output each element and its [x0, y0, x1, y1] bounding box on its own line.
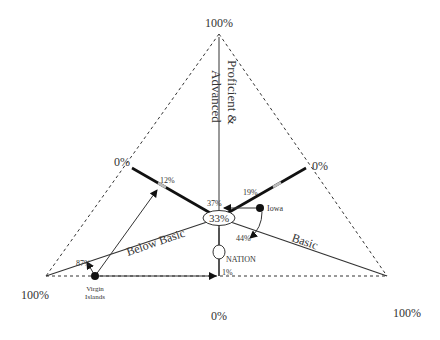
iowa-basic-value: 44%	[236, 234, 251, 243]
below-basic-label: Below Basic	[124, 226, 186, 259]
vi-1-value: 1%	[222, 268, 233, 277]
basic-label: Basic	[290, 231, 320, 253]
vi-arrow-12	[95, 190, 157, 276]
bottom-right-vertex-label: 100%	[393, 306, 421, 320]
iowa-19-value: 19%	[243, 188, 258, 197]
nation-oval[interactable]	[213, 245, 225, 259]
ternary-diagram: 33% NATION 100% 100% 100% 0% 0% 0% Profi…	[0, 0, 440, 340]
bottom-left-vertex-label: 100%	[21, 288, 49, 302]
virgin-islands-point[interactable]	[91, 272, 99, 280]
iowa-proficient-value: 37%	[207, 199, 222, 208]
bottom-zero-label: 0%	[211, 309, 227, 323]
vi-label-1: Virgin	[86, 285, 104, 293]
proficient-axis-label-2: Advanced	[209, 70, 224, 123]
vi-87-value: 87%	[76, 259, 91, 268]
iowa-point[interactable]	[256, 204, 264, 212]
vi-12-value: 12%	[160, 176, 175, 185]
center-label: 33%	[209, 212, 229, 224]
proficient-axis-label-1: Proficient &	[225, 60, 240, 125]
iowa-arrow-44	[250, 212, 262, 238]
top-vertex-label: 100%	[205, 16, 233, 30]
left-zero-label: 0%	[114, 155, 130, 169]
left-bisector	[132, 168, 219, 218]
iowa-label: Iowa	[267, 204, 283, 213]
nation-label: NATION	[226, 255, 256, 264]
vi-label-2: Islands	[85, 293, 105, 301]
right-zero-label: 0%	[312, 159, 328, 173]
